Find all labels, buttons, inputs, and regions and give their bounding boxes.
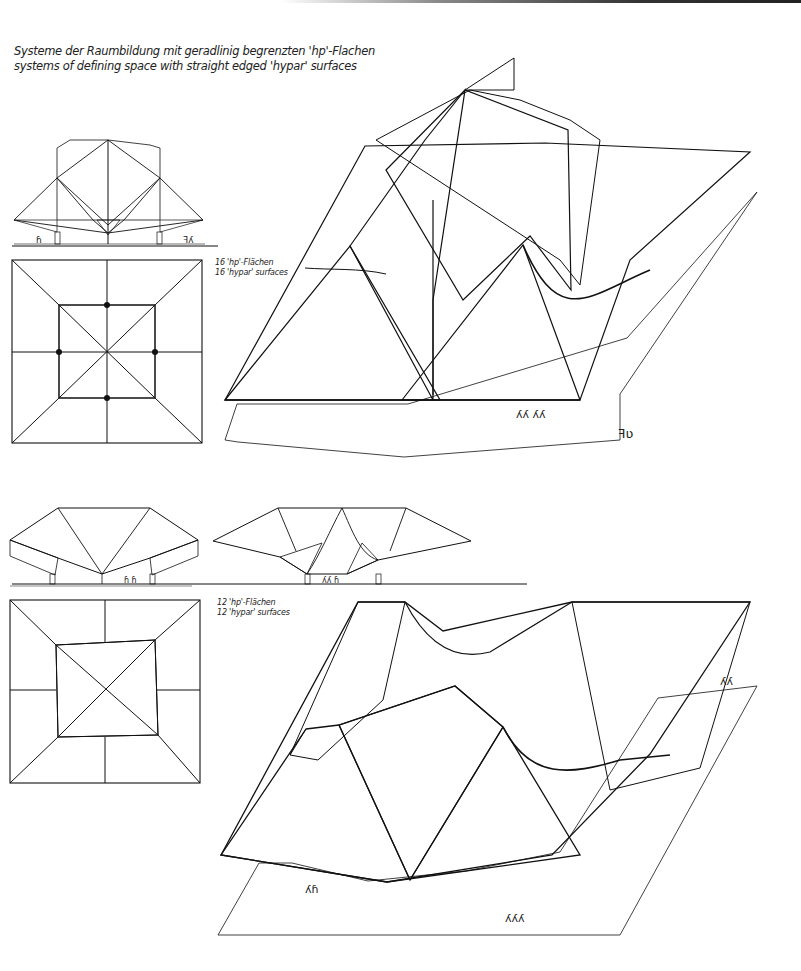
people-icon: ʎʎʎ	[505, 912, 525, 925]
people-icon: ʎʎ	[720, 675, 734, 688]
people-icon: ꟻʋ	[618, 426, 633, 441]
label-16-german: 16 'hp'-Flächen	[215, 258, 288, 268]
elevation-12-hypar-b: ʎʎ ɦ	[213, 508, 471, 585]
figures-icon: ꟻʎ	[183, 235, 194, 245]
label-12-english: 12 'hypar' surfaces	[217, 608, 290, 618]
people-icon: ʎʎ ɦ	[322, 576, 339, 585]
figure-icon: ɦ	[36, 235, 42, 245]
drawings-canvas: ɦ ꟻʎ ʎʎ ʎʎ ꟻʋ	[0, 0, 801, 971]
plan-16-hypar	[12, 260, 202, 443]
label-12-german: 12 'hp'-Flächen	[217, 598, 290, 608]
isometric-12-hypar: ʎɦ ʎʎʎ ʎʎ	[218, 602, 757, 935]
section-label-12: 12 'hp'-Flächen 12 'hypar' surfaces	[217, 598, 290, 618]
isometric-16-hypar: ʎʎ ʎʎ ꟻʋ	[225, 58, 757, 457]
elevation-12-hypar-a: ɦ ɦ	[10, 508, 527, 586]
person-icon: ʎɦ	[305, 883, 319, 896]
label-16-english: 16 'hypar' surfaces	[215, 268, 288, 278]
people-icon: ɦ ɦ	[124, 576, 137, 585]
plan-12-hypar	[10, 600, 200, 783]
people-icon: ʎʎ ʎʎ	[516, 408, 546, 421]
section-label-16: 16 'hp'-Flächen 16 'hypar' surfaces	[215, 258, 288, 278]
elevation-16-hypar: ɦ ꟻʎ	[12, 140, 218, 246]
